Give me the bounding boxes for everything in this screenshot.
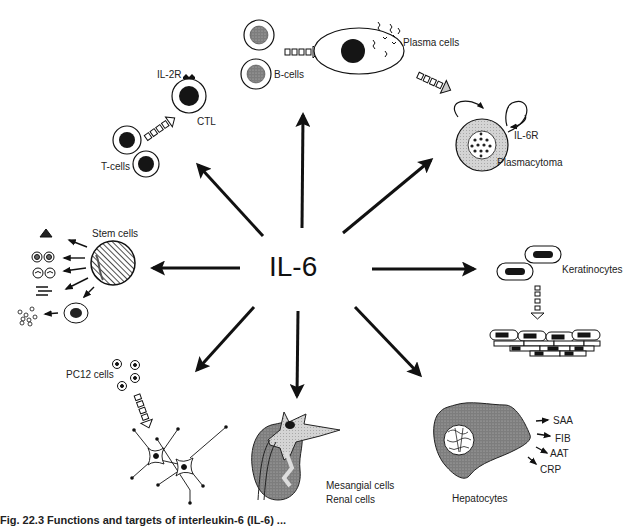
arrow-down-renal: [297, 311, 298, 396]
il6-center-label: IL-6: [269, 253, 317, 281]
differentiation-arrow-icon: [131, 393, 154, 430]
product-aat: AAT: [550, 449, 569, 459]
hepatocytes-group: [434, 403, 550, 478]
il6r-label: IL-6R: [514, 131, 538, 141]
il2r-receptor-icon: [183, 74, 195, 79]
t-cells-label: T-cells: [101, 162, 130, 172]
stem-cells-label: Stem cells: [92, 229, 138, 239]
pc12-cells-label: PC12 cells: [66, 370, 114, 380]
granulocyte-icons: [32, 252, 55, 278]
product-saa: SAA: [553, 416, 573, 426]
arrow-up-left-t-cells: [198, 165, 263, 236]
differentiation-arrow-icon: [415, 69, 454, 97]
arrow-down-right-hepatocytes: [355, 307, 420, 375]
hepatocytes-label: Hepatocytes: [452, 494, 508, 504]
neuron-network-icon: [130, 425, 228, 505]
il2r-label: IL-2R: [157, 70, 181, 80]
megakaryocyte-icon: [40, 229, 52, 237]
autocrine-loop-arrow-right: [506, 101, 527, 132]
stem-cells-group: [18, 229, 135, 326]
plasmacytoma-group: [415, 69, 527, 171]
differentiation-arrow-icon-vertical: [531, 286, 544, 319]
lymphocyte-icons: [36, 287, 52, 295]
renal-cells-label: Renal cells: [326, 495, 375, 505]
product-crp: CRP: [540, 465, 561, 475]
plasma-cells-label: Plasma cells: [403, 38, 459, 48]
differentiation-arrow-icon: [143, 113, 179, 143]
b-cells-group: [241, 20, 404, 89]
arrow-down-left-pc12: [197, 307, 254, 370]
mesangial-cells-label: Mesangial cells: [326, 481, 394, 491]
secretion-arrows: [528, 420, 550, 464]
keratinocytes-group: [490, 246, 600, 356]
arrow-up-b-cells: [302, 115, 303, 228]
platelet-icons: [18, 307, 37, 326]
product-fib: FIB: [555, 434, 571, 444]
ctl-label: CTL: [197, 117, 216, 127]
autocrine-loop-arrow-left: [454, 101, 483, 117]
epidermis-layer-icon: [490, 330, 600, 356]
b-cells-label: B-cells: [274, 70, 304, 80]
pc12-group: [113, 360, 228, 505]
keratinocytes-label: Keratinocytes: [562, 265, 623, 275]
plasmacytoma-label: Plasmacytoma: [497, 158, 563, 168]
arrow-up-right-plasmacytoma: [343, 160, 431, 233]
figure-caption-partial: Fig. 22.3 Functions and targets of inter…: [0, 515, 286, 526]
